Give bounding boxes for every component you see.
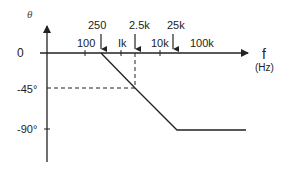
y-tick-label-0: 0 bbox=[17, 46, 24, 60]
x-axis-label: f bbox=[262, 46, 266, 62]
y-tick-label-m45: -45° bbox=[17, 83, 37, 95]
x-tick-label-1k: Ik bbox=[118, 37, 127, 49]
phase-bode-plot: θ 0 -45° -90° 100 Ik 10k 100k 250 2.5k 2… bbox=[0, 0, 293, 175]
x-tick-label-100k: 100k bbox=[190, 37, 214, 49]
y-axis-label: θ bbox=[27, 8, 33, 20]
annotation-250: 250 bbox=[88, 19, 106, 31]
x-tick-label-10k: 10k bbox=[151, 37, 169, 49]
annotation-25k: 25k bbox=[167, 19, 185, 31]
y-tick-label-m90: -90° bbox=[17, 123, 37, 135]
annotation-2.5k: 2.5k bbox=[129, 19, 150, 31]
phase-curve bbox=[101, 53, 246, 130]
x-tick-label-100: 100 bbox=[77, 37, 95, 49]
x-axis-unit: (Hz) bbox=[255, 62, 274, 73]
